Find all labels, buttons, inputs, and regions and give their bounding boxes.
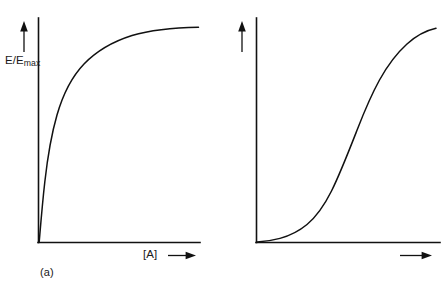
- curve-a-saturation: [39, 27, 198, 242]
- y-axis-label-a: E/Emax: [5, 55, 40, 68]
- plot-a: [0, 0, 224, 287]
- up-arrow-icon: [238, 21, 246, 52]
- right-arrow-icon: [168, 252, 196, 259]
- x-axis-label-a: [A]: [143, 249, 157, 261]
- figure-container: E/Emax [A] (a) E/Emax log [A] (b): [0, 0, 448, 287]
- right-arrow-icon: [400, 252, 432, 259]
- curve-b-sigmoid: [257, 28, 436, 242]
- panel-tag-a: (a): [40, 267, 54, 278]
- panel-a: E/Emax [A] (a): [0, 0, 224, 287]
- up-arrow-icon: [20, 21, 28, 52]
- y-axis-label-a-subscript: max: [24, 58, 40, 68]
- plot-b: [224, 0, 448, 287]
- panel-b: E/Emax log [A] (b): [224, 0, 448, 287]
- y-axis-label-a-text: E/E: [5, 54, 24, 66]
